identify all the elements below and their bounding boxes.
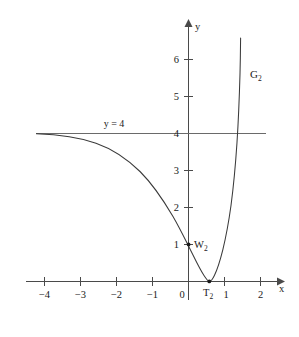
point-label-w2-subscript: 2 [204, 244, 208, 253]
curve-label-g2: G2 [250, 68, 262, 83]
x-tick-label--2: −2 [111, 289, 122, 300]
curve-label-g2-base: G [250, 68, 258, 80]
point-label-w2: W2 [194, 239, 208, 253]
x-tick-label-1: 1 [223, 289, 228, 300]
y-tick-label-group: 1 2 3 4 5 6 [174, 54, 180, 250]
y-tick-label-3: 3 [174, 165, 179, 176]
y-tick-label-6: 6 [174, 54, 179, 65]
y-tick-label-5: 5 [174, 91, 179, 102]
y-axis-arrowhead [185, 19, 193, 27]
y-axis-label: y [195, 21, 201, 32]
asymptote-label: y = 4 [104, 118, 125, 129]
point-label-t2-subscript: 2 [209, 292, 213, 301]
point-label-t2: T2 [203, 287, 213, 301]
plot-canvas: −4 −3 −2 −1 0 1 2 1 2 3 4 5 6 x y y = 4 … [0, 0, 299, 337]
point-label-w2-base: W [194, 239, 204, 250]
x-tick-label-group: −4 −3 −2 −1 0 1 2 [39, 289, 263, 300]
x-tick-label-2: 2 [258, 289, 263, 300]
function-graph-figure: −4 −3 −2 −1 0 1 2 1 2 3 4 5 6 x y y = 4 … [0, 0, 299, 337]
y-tick-label-4: 4 [174, 128, 180, 139]
point-t2-marker [207, 280, 211, 284]
curve-g2 [37, 38, 241, 281]
y-tick-label-1: 1 [174, 239, 179, 250]
x-axis-label: x [279, 283, 285, 294]
x-tick-label-0: 0 [179, 289, 184, 300]
x-tick-label--1: −1 [147, 289, 158, 300]
curve-label-g2-subscript: 2 [258, 74, 262, 83]
axes-group [26, 19, 285, 300]
x-tick-label--4: −4 [39, 289, 51, 300]
y-tick-label-2: 2 [174, 202, 179, 213]
point-w2-marker [187, 243, 191, 247]
x-tick-label--3: −3 [75, 289, 86, 300]
